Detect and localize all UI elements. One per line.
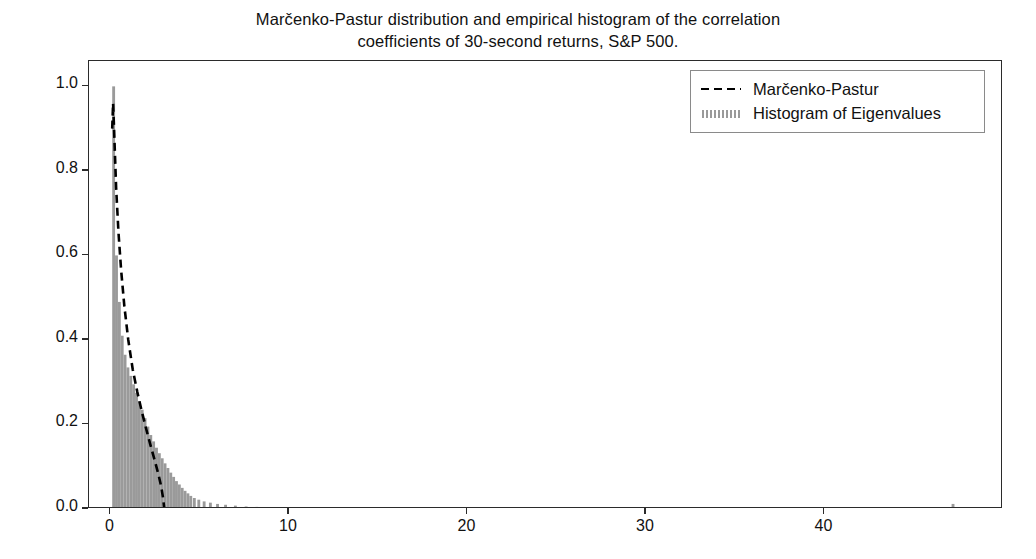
histogram-bar bbox=[135, 393, 138, 507]
histogram-bar bbox=[224, 505, 227, 507]
histogram-bar bbox=[197, 500, 200, 507]
histogram-bar bbox=[155, 448, 158, 507]
y-axis-tick-label: 0.4 bbox=[22, 328, 78, 346]
histogram-bar bbox=[178, 484, 181, 507]
histogram-bar bbox=[126, 367, 129, 507]
y-axis-tick-label: 0.0 bbox=[22, 497, 78, 515]
y-axis-tick-label: 1.0 bbox=[22, 74, 78, 92]
histogram-bar bbox=[175, 481, 178, 507]
histogram-bar bbox=[203, 501, 206, 507]
y-axis-tick-label: 0.2 bbox=[22, 412, 78, 430]
histogram-bar bbox=[138, 401, 141, 507]
y-axis-tick-label: 0.6 bbox=[22, 243, 78, 261]
x-axis-tick-label: 20 bbox=[458, 517, 476, 535]
legend-label-marcenko-pastur: Marčenko-Pastur bbox=[753, 80, 879, 99]
histogram-bar bbox=[166, 468, 169, 507]
chart-legend: Marčenko-Pastur Histogram of Eigenvalues bbox=[690, 70, 985, 133]
histogram-bar bbox=[152, 441, 155, 507]
histogram-bar bbox=[115, 255, 118, 507]
chart-title-line-2: coefficients of 30-second returns, S&P 5… bbox=[0, 30, 1036, 52]
chart-title: Marčenko-Pastur distribution and empiric… bbox=[0, 8, 1036, 52]
histogram-bar bbox=[146, 427, 149, 507]
histogram-bar bbox=[189, 496, 192, 507]
histogram-bar bbox=[121, 336, 124, 507]
x-axis-tick-label: 10 bbox=[279, 517, 297, 535]
y-axis-tick-label: 0.8 bbox=[22, 159, 78, 177]
legend-item-histogram: Histogram of Eigenvalues bbox=[701, 101, 974, 125]
histogram-bar bbox=[129, 376, 132, 507]
x-axis-tick-mark bbox=[644, 508, 645, 514]
histogram-bar bbox=[234, 506, 237, 507]
legend-item-marcenko-pastur: Marčenko-Pastur bbox=[701, 77, 974, 101]
histogram-bar bbox=[169, 473, 172, 507]
histogram-bar bbox=[952, 504, 955, 507]
x-axis-tick-label: 40 bbox=[815, 517, 833, 535]
histogram-bar bbox=[209, 503, 212, 507]
histogram-bar bbox=[141, 410, 144, 507]
chart-title-line-1: Marčenko-Pastur distribution and empiric… bbox=[0, 8, 1036, 30]
x-axis-tick-label: 0 bbox=[105, 517, 114, 535]
x-axis-tick-mark bbox=[466, 508, 467, 514]
histogram-bar bbox=[132, 384, 135, 507]
legend-label-histogram: Histogram of Eigenvalues bbox=[753, 104, 941, 123]
dashed-line-swatch-icon bbox=[701, 82, 741, 96]
histogram-bar bbox=[118, 302, 121, 507]
histogram-bar bbox=[181, 488, 184, 507]
histogram-bar bbox=[193, 498, 196, 507]
bar-patch-swatch-icon bbox=[701, 106, 741, 120]
histogram-bar bbox=[164, 463, 167, 507]
histogram-bar bbox=[172, 477, 175, 507]
histogram-bar bbox=[216, 504, 219, 507]
x-axis-tick-mark bbox=[109, 508, 110, 514]
x-axis-tick-label: 30 bbox=[636, 517, 654, 535]
histogram-bar bbox=[184, 491, 187, 507]
chart-figure: Marčenko-Pastur distribution and empiric… bbox=[0, 0, 1036, 559]
x-axis-tick-mark bbox=[823, 508, 824, 514]
histogram-bar bbox=[124, 355, 127, 507]
x-axis-tick-mark bbox=[287, 508, 288, 514]
histogram-bar bbox=[245, 506, 248, 507]
histogram-bar bbox=[186, 493, 189, 507]
